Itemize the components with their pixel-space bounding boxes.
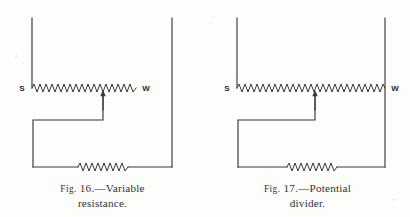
resistance-wire-sw bbox=[237, 84, 385, 92]
caption-number: 16. bbox=[80, 182, 95, 194]
caption-dash: — bbox=[94, 182, 105, 194]
caption-dash: — bbox=[298, 182, 309, 194]
caption-title-line1: Variable bbox=[106, 182, 145, 194]
scanned-page: S W Fig. 16.—Variable resistance. bbox=[0, 0, 410, 217]
terminal-label-s: S bbox=[19, 84, 25, 93]
terminal-label-w: W bbox=[391, 84, 399, 93]
figure-16-variable-resistance: S W Fig. 16.—Variable resistance. bbox=[0, 0, 205, 217]
caption-fig-word: Fig. bbox=[60, 184, 77, 194]
terminal-label-s: S bbox=[224, 84, 230, 93]
caption-title-line1: Potential bbox=[309, 182, 351, 194]
circuit-diagram-fig16: S W bbox=[0, 0, 205, 180]
slider-wiper-arrowhead bbox=[100, 90, 105, 96]
figure-16-caption: Fig. 16.—Variable resistance. bbox=[0, 182, 205, 210]
figure-17-potential-divider: S W Fig. 17.—Potential divider. bbox=[205, 0, 410, 217]
caption-fig-word: Fig. bbox=[264, 184, 281, 194]
terminal-label-w: W bbox=[142, 84, 150, 93]
caption-title-line2: resistance. bbox=[0, 197, 205, 211]
return-wire bbox=[238, 93, 315, 167]
caption-title-line2: divider. bbox=[205, 197, 410, 211]
load-resistor bbox=[78, 163, 128, 171]
caption-number: 17. bbox=[283, 182, 298, 194]
circuit-diagram-fig17: S W bbox=[205, 0, 410, 180]
figure-17-caption: Fig. 17.—Potential divider. bbox=[205, 182, 410, 210]
return-wire bbox=[33, 93, 103, 167]
load-resistor bbox=[287, 163, 337, 171]
resistance-wire-sw bbox=[32, 84, 136, 92]
